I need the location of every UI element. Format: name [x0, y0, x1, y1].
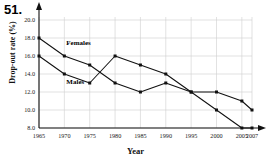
x-tick-label: 1970 — [58, 132, 70, 139]
x-tick-label: 1965 — [33, 132, 45, 139]
data-point-marker — [139, 64, 142, 67]
y-tick-label: 10.0 — [24, 106, 35, 113]
data-point-marker — [63, 73, 66, 76]
y-tick-label: 8.0 — [27, 124, 35, 131]
data-point-marker — [164, 73, 167, 76]
data-point-marker — [114, 55, 117, 58]
data-point-marker — [38, 37, 41, 40]
y-tick-label: 16.0 — [24, 52, 35, 59]
data-point-marker — [164, 82, 167, 85]
data-point-marker — [215, 91, 218, 94]
x-tick-label: 1980 — [109, 132, 121, 139]
y-tick-label: 14.0 — [24, 70, 35, 77]
series-annotation-females: Females — [66, 39, 91, 47]
x-tick-label: 1975 — [84, 132, 96, 139]
y-tick-label: 20.0 — [24, 16, 35, 23]
data-point-marker — [114, 82, 117, 85]
line-chart: 8.010.012.014.016.018.020.01965197019751… — [0, 0, 271, 163]
data-point-marker — [215, 109, 218, 112]
data-point-marker — [38, 55, 41, 58]
y-tick-label: 12.0 — [24, 88, 35, 95]
series-annotation-males: Males — [66, 78, 84, 86]
data-point-marker — [240, 100, 243, 103]
x-tick-label: 2007 — [246, 132, 258, 139]
data-point-marker — [251, 109, 254, 112]
data-point-marker — [63, 55, 66, 58]
x-tick-label: 1985 — [134, 132, 146, 139]
x-axis-arrow — [258, 125, 266, 131]
x-axis-label: Year — [0, 146, 271, 156]
data-point-marker — [88, 82, 91, 85]
y-tick-label: 18.0 — [24, 34, 35, 41]
y-axis-arrow — [36, 2, 42, 10]
data-point-marker — [88, 64, 91, 67]
x-tick-label: 1990 — [160, 132, 172, 139]
data-point-marker — [251, 127, 254, 130]
figure-container: 51. Drop-out rate (%) 8.010.012.014.016.… — [0, 0, 271, 163]
data-point-marker — [240, 127, 243, 130]
data-point-marker — [139, 91, 142, 94]
data-point-marker — [190, 91, 193, 94]
x-tick-label: 1995 — [185, 132, 197, 139]
x-tick-label: 2000 — [210, 132, 222, 139]
